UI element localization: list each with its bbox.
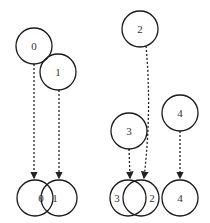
node-circle [17, 180, 53, 216]
node-label: 3 [126, 125, 132, 137]
node-4-bottom: 4 [162, 180, 198, 216]
diagram-canvas: 01234 01324 [0, 0, 210, 223]
edge-arrow-3-to-3 [129, 149, 130, 178]
node-4-top: 4 [162, 95, 198, 131]
node-label: 2 [137, 23, 143, 35]
node-3-top: 3 [111, 113, 147, 149]
edge-arrow-2-to-2 [144, 46, 149, 178]
node-label: 1 [52, 192, 58, 204]
node-label: 3 [114, 192, 120, 204]
node-1-bottom: 1 [41, 180, 77, 216]
bottom-row-nodes: 01324 [17, 180, 198, 216]
node-label: 4 [177, 107, 183, 119]
node-0-bottom: 0 [17, 180, 53, 216]
node-label: 4 [177, 192, 183, 204]
node-label: 1 [55, 66, 61, 78]
node-1-top: 1 [40, 54, 76, 90]
node-2-top: 2 [122, 11, 158, 47]
top-row-nodes: 01234 [16, 11, 198, 149]
node-circle [41, 180, 77, 216]
node-label: 0 [31, 40, 37, 52]
node-label: 2 [149, 192, 155, 204]
